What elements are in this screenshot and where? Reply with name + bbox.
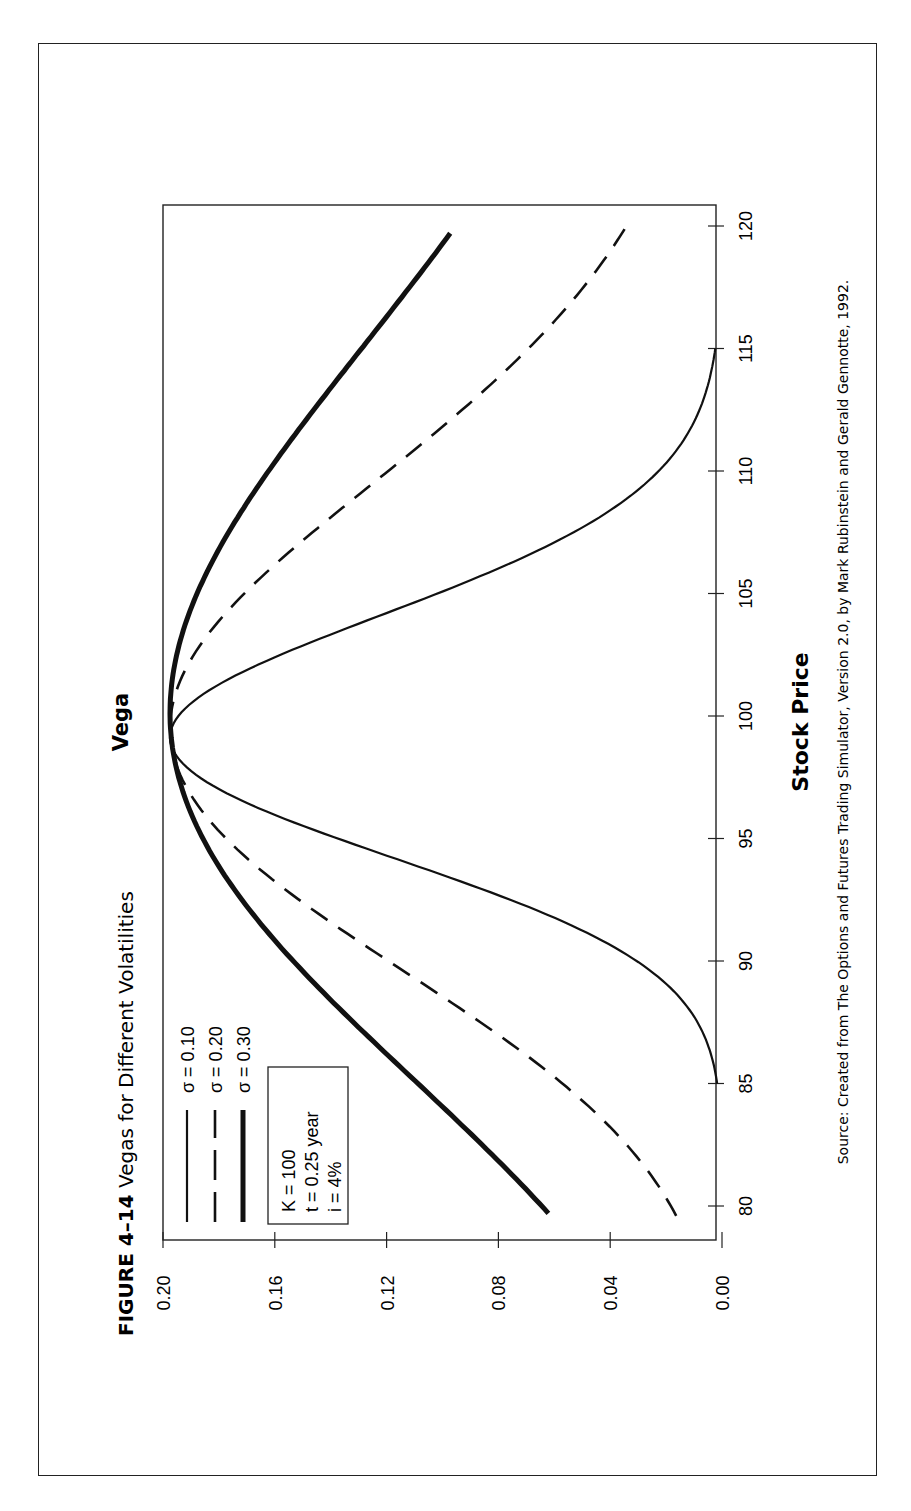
x-tick-label: 95 — [736, 828, 756, 848]
vega-axis: 0.000.040.080.120.160.20 — [154, 1232, 733, 1311]
source-note: Source: Created from The Options and Fut… — [835, 280, 851, 1165]
figure-number: FIGURE 4–14 — [114, 1194, 138, 1336]
x-tick-label: 120 — [736, 211, 756, 241]
x-tick-label: 105 — [736, 578, 756, 608]
y-tick-label: 0.16 — [266, 1275, 286, 1310]
x-tick-label: 110 — [736, 457, 756, 486]
x-tick-label: 85 — [736, 1073, 756, 1093]
y-tick-label: 0.04 — [601, 1275, 621, 1310]
y-axis-label: Vega — [109, 693, 133, 752]
series-sigma-0.30 — [170, 233, 548, 1213]
legend-label-0: σ = 0.10 — [178, 1026, 198, 1093]
parameter-box: K = 100 t = 0.25 year i = 4% — [268, 1067, 348, 1224]
x-tick-label: 115 — [736, 334, 756, 363]
series-sigma-0.10 — [170, 349, 717, 1084]
y-tick-label: 0.00 — [713, 1275, 733, 1310]
y-tick-label: 0.20 — [154, 1275, 174, 1310]
x-axis-label: Stock Price — [788, 652, 813, 791]
param-time: t = 0.25 year — [302, 1111, 322, 1212]
legend: σ = 0.10 σ = 0.20 σ = 0.30 — [178, 1026, 254, 1222]
chart-figure: FIGURE 4–14 Vegas for Different Volatili… — [0, 0, 911, 1511]
param-rate: i = 4% — [325, 1161, 345, 1212]
y-tick-label: 0.12 — [378, 1275, 398, 1310]
x-tick-label: 80 — [736, 1196, 756, 1216]
stock-price-axis: 80859095100105110115120 — [708, 211, 756, 1216]
y-tick-label: 0.08 — [489, 1275, 509, 1310]
x-tick-label: 100 — [736, 701, 756, 731]
legend-label-1: σ = 0.20 — [206, 1026, 226, 1093]
legend-label-2: σ = 0.30 — [234, 1026, 254, 1093]
x-tick-label: 90 — [736, 951, 756, 971]
param-strike: K = 100 — [279, 1149, 299, 1212]
figure-title: Vegas for Different Volatilities — [114, 891, 138, 1188]
